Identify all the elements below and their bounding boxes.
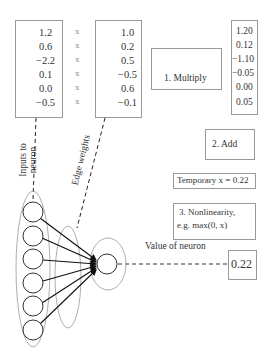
product-value: 0.00	[236, 81, 253, 93]
input-value: −0.5	[36, 97, 55, 109]
input-value: 0.1	[39, 69, 52, 81]
times-symbol: x	[75, 54, 80, 64]
input-value: 1.2	[39, 27, 52, 39]
product-value: −1.10	[232, 53, 254, 65]
multiply-label: 1. Multiply	[164, 73, 207, 83]
multiply-step-box	[151, 48, 222, 90]
product-value: 0.05	[236, 96, 253, 108]
times-symbol: x	[75, 40, 80, 50]
input-neurons	[23, 202, 43, 340]
product-value: −0.05	[232, 67, 254, 79]
weight-value: −0.1	[118, 97, 137, 109]
weight-value: 0.2	[121, 41, 134, 53]
add-label: 2. Add	[212, 139, 237, 149]
inputs-to-neuron-label: Inputs to neuron	[18, 130, 38, 190]
product-value: 0.12	[236, 39, 253, 51]
weight-value: −0.5	[118, 69, 137, 81]
input-value: −2.2	[36, 55, 55, 67]
weight-value: 1.0	[121, 27, 134, 39]
output-neuron	[97, 254, 117, 274]
neuron-value: 0.22	[231, 257, 252, 272]
times-symbol: x	[75, 82, 80, 92]
times-symbol: x	[75, 68, 80, 78]
input-value: 0.6	[39, 41, 52, 53]
nonlinearity-label-line1: 3. Nonlinearity,	[179, 207, 235, 217]
weight-value: 0.5	[121, 55, 134, 67]
times-symbol: x	[75, 26, 80, 36]
value-of-neuron-label: Value of neuron	[145, 241, 206, 251]
times-symbol: x	[75, 96, 80, 106]
product-value: 1.20	[236, 25, 253, 37]
temporary-label: Temporary x = 0.22	[177, 175, 248, 185]
weight-value: 0.6	[121, 83, 134, 95]
input-value: 0.0	[39, 83, 52, 95]
nonlinearity-label-line2: e.g. max(0, x)	[177, 220, 227, 230]
